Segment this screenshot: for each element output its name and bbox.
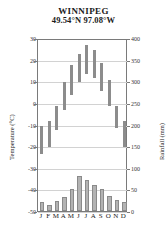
gridline: [38, 190, 128, 191]
gridline: [38, 82, 128, 83]
y-tick-mark-right: [127, 169, 130, 170]
y-tick-label-left: 20: [14, 58, 36, 64]
month-label: J: [82, 213, 90, 220]
y-tick-mark-left: [34, 147, 37, 148]
month-label: M: [52, 213, 60, 220]
temperature-range-bar: [78, 54, 81, 82]
temperature-range-bar: [63, 82, 66, 110]
temperature-range-bar: [100, 63, 103, 91]
y-tick-mark-right: [127, 126, 130, 127]
rainfall-bar: [70, 189, 75, 211]
temperature-range-bar: [93, 50, 96, 78]
temperature-range-bar: [115, 106, 118, 128]
month-label: A: [60, 213, 68, 220]
y-tick-mark-right: [127, 61, 130, 62]
temperature-range-bar: [70, 65, 73, 95]
y-tick-mark-left: [34, 61, 37, 62]
month-label: J: [37, 213, 45, 220]
rainfall-bar: [40, 202, 45, 211]
month-label: S: [97, 213, 105, 220]
y-tick-mark-right: [127, 39, 130, 40]
y-tick-mark-right: [127, 212, 130, 213]
temperature-range-bar: [40, 126, 43, 154]
y-tick-label-right: 0: [131, 209, 155, 215]
y-tick-label-right: 150: [131, 144, 155, 150]
y-tick-mark-right: [127, 82, 130, 83]
gridline: [38, 147, 128, 148]
y-tick-label-left: -50: [14, 209, 36, 215]
y-tick-label-left: -40: [14, 187, 36, 193]
y-tick-label-right: 400: [131, 36, 155, 42]
y-tick-label-right: 250: [131, 101, 155, 107]
plot-area: [37, 39, 127, 212]
y-tick-label-right: 350: [131, 58, 155, 64]
temperature-range-bar: [48, 121, 51, 147]
y-tick-label-left: -30: [14, 166, 36, 172]
y-tick-label-right: 300: [131, 79, 155, 85]
y-axis-label-temperature: Temperature (°C): [8, 114, 15, 160]
y-tick-mark-right: [127, 147, 130, 148]
chart-subtitle-coordinates: 49.54°N 97.08°W: [0, 16, 167, 26]
rainfall-bar: [92, 185, 97, 211]
temperature-range-bar: [85, 45, 88, 73]
gridline: [38, 169, 128, 170]
y-tick-mark-right: [127, 190, 130, 191]
rainfall-bar: [55, 201, 60, 211]
y-tick-mark-left: [34, 104, 37, 105]
y-tick-mark-left: [34, 190, 37, 191]
month-label: M: [67, 213, 75, 220]
gridline: [38, 39, 128, 40]
rainfall-bar: [47, 205, 52, 211]
gridline: [38, 61, 128, 62]
temperature-range-bar: [55, 106, 58, 130]
y-tick-mark-left: [34, 126, 37, 127]
y-tick-mark-left: [34, 212, 37, 213]
y-tick-mark-left: [34, 82, 37, 83]
month-label: O: [105, 213, 113, 220]
y-tick-label-right: 200: [131, 123, 155, 129]
y-tick-label-left: 0: [14, 101, 36, 107]
y-tick-mark-left: [34, 39, 37, 40]
rainfall-bar: [115, 200, 120, 211]
month-label: N: [112, 213, 120, 220]
y-tick-mark-left: [34, 169, 37, 170]
y-tick-label-left: -10: [14, 123, 36, 129]
rainfall-bar: [85, 180, 90, 211]
temperature-range-bar: [108, 80, 111, 106]
month-label: F: [45, 213, 53, 220]
title-block: WINNIPEG 49.54°N 97.08°W: [0, 6, 167, 26]
month-label: D: [120, 213, 128, 220]
y-tick-label-left: -20: [14, 144, 36, 150]
rainfall-bar: [107, 196, 112, 211]
rainfall-bar: [62, 197, 67, 211]
y-axis-label-rainfall: Rainfall (mm): [158, 123, 165, 160]
rainfall-bar: [77, 176, 82, 211]
month-label: A: [90, 213, 98, 220]
x-axis-month-labels: JFMAMJJASOND: [37, 213, 127, 225]
y-tick-mark-right: [127, 104, 130, 105]
rainfall-bar: [122, 202, 127, 211]
y-tick-label-left: 30: [14, 36, 36, 42]
y-tick-label-right: 50: [131, 187, 155, 193]
temperature-range-bar: [123, 121, 126, 147]
rainfall-bar: [100, 189, 105, 211]
y-tick-label-right: 100: [131, 166, 155, 172]
month-label: J: [75, 213, 83, 220]
y-tick-label-left: 10: [14, 79, 36, 85]
gridline: [38, 104, 128, 105]
climate-chart-figure: WINNIPEG 49.54°N 97.08°W Temperature (°C…: [0, 0, 167, 233]
